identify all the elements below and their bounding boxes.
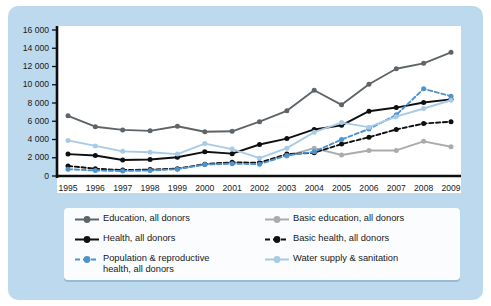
data-point	[93, 153, 98, 158]
data-point	[394, 105, 399, 110]
y-axis-tick-label: 12 000	[0, 61, 49, 71]
x-axis-tick-label: 2001	[217, 183, 247, 193]
data-point	[449, 98, 454, 103]
data-point	[202, 141, 207, 146]
data-point	[175, 124, 180, 129]
data-point	[93, 168, 98, 173]
data-point	[366, 148, 371, 153]
data-point	[421, 139, 426, 144]
y-axis-tick-label: 8 000	[0, 98, 49, 108]
chart-legend: Education, all donorsBasic education, al…	[64, 208, 460, 280]
data-point	[449, 119, 454, 124]
legend-swatch-icon	[74, 234, 100, 245]
data-point	[230, 151, 235, 156]
data-point	[421, 121, 426, 126]
x-axis-tick-label: 2002	[245, 183, 275, 193]
y-axis-tick-label: 14 000	[0, 43, 49, 53]
data-point	[312, 149, 317, 154]
legend-swatch-icon	[74, 254, 100, 265]
legend-swatch-icon	[264, 254, 290, 265]
data-point	[421, 86, 426, 91]
data-point	[202, 149, 207, 154]
data-point	[93, 143, 98, 148]
series-1	[284, 139, 453, 159]
data-point	[120, 127, 125, 132]
legend-item[interactable]: Education, all donors	[74, 213, 190, 225]
x-axis-tick-label: 1995	[53, 183, 83, 193]
legend-swatch-icon	[264, 234, 290, 245]
data-point	[175, 167, 180, 172]
data-point	[421, 100, 426, 105]
data-point	[312, 88, 317, 93]
data-point	[366, 135, 371, 140]
data-point	[257, 162, 262, 167]
x-axis-tick-label: 2006	[354, 183, 384, 193]
data-point	[421, 106, 426, 111]
chart-figure: 02 0004 0006 0008 00010 00012 00014 0001…	[0, 0, 491, 306]
data-point	[66, 138, 71, 143]
data-point	[202, 129, 207, 134]
data-point	[449, 50, 454, 55]
legend-item-label: Health, all donors	[103, 233, 175, 244]
y-axis-tick-label: 16 000	[0, 25, 49, 35]
x-axis-tick-label: 1997	[108, 183, 138, 193]
data-point	[257, 142, 262, 147]
legend-item-label: Basic education, all donors	[293, 213, 404, 224]
legend-item[interactable]: Health, all donors	[74, 233, 175, 245]
data-point	[394, 66, 399, 71]
data-point	[394, 127, 399, 132]
data-point	[339, 102, 344, 107]
data-point	[257, 156, 262, 161]
x-axis-tick-label: 2004	[299, 183, 329, 193]
data-point	[339, 153, 344, 158]
legend-item[interactable]: Population & reproductive health, all do…	[74, 253, 209, 276]
y-axis-tick-label: 6 000	[0, 116, 49, 126]
x-axis-tick-label: 1999	[162, 183, 192, 193]
data-point	[148, 150, 153, 155]
data-point	[93, 124, 98, 129]
legend-item[interactable]: Basic education, all donors	[264, 213, 404, 225]
data-point	[284, 108, 289, 113]
data-point	[366, 109, 371, 114]
y-axis-tick-label: 10 000	[0, 79, 49, 89]
data-point	[394, 114, 399, 119]
data-point	[339, 120, 344, 125]
data-point	[148, 128, 153, 133]
y-axis-tick-label: 0	[0, 171, 49, 181]
data-point	[449, 144, 454, 149]
x-axis-tick-label: 2007	[381, 183, 411, 193]
x-axis-tick-label: 2008	[409, 183, 439, 193]
legend-item-label: Population & reproductive health, all do…	[103, 253, 209, 276]
axes	[52, 26, 461, 178]
x-axis-tick-label: 2005	[327, 183, 357, 193]
data-point	[120, 168, 125, 173]
data-point	[284, 146, 289, 151]
data-point	[148, 168, 153, 173]
data-point	[339, 142, 344, 147]
data-point	[257, 119, 262, 124]
data-point	[284, 153, 289, 158]
data-point	[230, 129, 235, 134]
x-axis-tick-label: 1996	[80, 183, 110, 193]
data-point	[394, 148, 399, 153]
data-point	[175, 152, 180, 157]
legend-swatch-icon	[264, 214, 290, 225]
series-0	[66, 50, 454, 134]
legend-item-label: Basic health, all donors	[293, 233, 389, 244]
data-point	[339, 137, 344, 142]
x-axis-tick-label: 2000	[190, 183, 220, 193]
data-point	[66, 152, 71, 157]
legend-item[interactable]: Basic health, all donors	[264, 233, 389, 245]
x-axis-tick-label: 2003	[272, 183, 302, 193]
data-point	[66, 167, 71, 172]
data-point	[230, 161, 235, 166]
data-point	[366, 82, 371, 87]
data-point	[230, 147, 235, 152]
data-point	[148, 157, 153, 162]
y-axis-tick-label: 4 000	[0, 134, 49, 144]
data-point	[366, 125, 371, 130]
data-series-layer	[66, 50, 454, 174]
x-axis-tick-label: 1998	[135, 183, 165, 193]
legend-item[interactable]: Water supply & sanitation	[264, 253, 398, 265]
data-point	[284, 136, 289, 141]
